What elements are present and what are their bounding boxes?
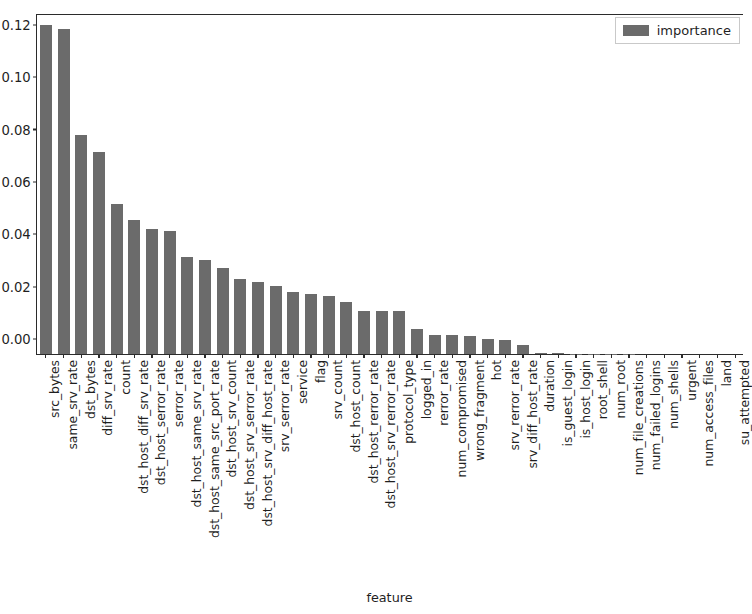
bar — [234, 279, 246, 354]
x-axis-tick-mark — [45, 354, 46, 358]
x-axis-tick-label: hot — [491, 360, 503, 380]
bar — [128, 220, 140, 354]
x-axis-tick-label: root_shell — [597, 360, 609, 419]
x-axis-tick-mark — [275, 354, 276, 358]
y-axis-tick-label: 0.04 — [2, 227, 31, 242]
bar — [376, 311, 388, 354]
y-axis-tick: 0.04 — [2, 227, 37, 242]
bar — [393, 311, 405, 354]
x-axis-tick-label: duration — [544, 360, 556, 412]
x-axis-tick-mark — [522, 354, 523, 358]
x-axis-tick-label: same_srv_rate — [67, 360, 79, 450]
bar — [323, 296, 335, 354]
x-axis-tick-mark — [346, 354, 347, 358]
x-axis-tick-label: num_access_files — [703, 360, 715, 466]
x-axis-tick-mark — [98, 354, 99, 358]
x-axis-tick-label: num_root — [615, 360, 627, 418]
bar — [287, 292, 299, 354]
x-axis-tick-label: num_file_creations — [633, 360, 645, 475]
bar — [464, 336, 476, 354]
bar — [482, 339, 494, 354]
y-axis-tick-label: 0.02 — [2, 279, 31, 294]
x-axis-tick-label: protocol_type — [403, 360, 415, 444]
x-axis-tick-label: wrong_fragment — [474, 360, 486, 461]
bar — [93, 152, 105, 354]
x-axis-tick-label: dst_host_rerror_rate — [368, 360, 380, 484]
x-axis-tick-label: logged_in — [421, 360, 433, 419]
x-axis-tick-mark — [575, 354, 576, 358]
x-axis-tick-label: urgent — [686, 360, 698, 401]
x-axis-tick-mark — [363, 354, 364, 358]
x-axis-tick-mark — [646, 354, 647, 358]
x-axis-tick-label: land — [721, 360, 733, 387]
x-axis-tick-label: num_compromised — [456, 360, 468, 477]
y-axis-tick-label: 0.10 — [2, 70, 31, 85]
bar — [517, 345, 529, 354]
bar — [58, 29, 70, 354]
x-axis-tick-mark — [558, 354, 559, 358]
bar — [252, 282, 264, 354]
x-axis-tick-label: num_failed_logins — [650, 360, 662, 470]
y-axis-tick-label: 0.12 — [2, 17, 31, 32]
y-axis-tick-label: 0.08 — [2, 122, 31, 137]
x-axis-tick-label: dst_host_same_src_port_rate — [209, 360, 221, 538]
x-axis-tick-mark — [735, 354, 736, 358]
x-axis-tick-label: count — [120, 360, 132, 395]
legend-swatch-importance — [623, 25, 649, 36]
x-axis-tick-mark — [169, 354, 170, 358]
legend: importance — [615, 17, 740, 44]
bar — [111, 204, 123, 354]
x-axis-tick-label: is_guest_login — [562, 360, 574, 446]
x-axis-tick-mark — [222, 354, 223, 358]
x-axis-tick-mark — [699, 354, 700, 358]
y-axis-tick: 0.12 — [2, 17, 37, 32]
x-axis-tick-label: dst_host_srv_serror_rate — [244, 360, 256, 510]
bar — [75, 135, 87, 354]
x-axis-tick-label: srv_diff_host_rate — [527, 360, 539, 469]
bar — [199, 260, 211, 354]
x-axis-tick-label: service — [297, 360, 309, 404]
y-axis-tick: 0.02 — [2, 279, 37, 294]
x-axis-tick-label: dst_host_diff_srv_rate — [138, 360, 150, 494]
x-axis-tick-mark — [116, 354, 117, 358]
x-axis-tick-mark — [293, 354, 294, 358]
x-axis-tick-mark — [628, 354, 629, 358]
x-axis-tick-label: src_bytes — [49, 360, 61, 418]
x-axis-tick-label: dst_host_serror_rate — [155, 360, 167, 485]
x-axis-tick-mark — [240, 354, 241, 358]
bar — [305, 294, 317, 354]
y-axis-tick: 0.06 — [2, 174, 37, 189]
bar — [181, 257, 193, 354]
y-axis-tick-label: 0.00 — [2, 332, 31, 347]
bar — [429, 335, 441, 354]
bar — [411, 329, 423, 354]
x-axis-tick-label: srv_count — [332, 360, 344, 420]
x-axis-tick-label: srv_rerror_rate — [509, 360, 521, 451]
x-axis-tick-label: dst_host_count — [350, 360, 362, 453]
x-axis-tick-mark — [81, 354, 82, 358]
x-axis-tick-mark — [399, 354, 400, 358]
x-axis-tick-mark — [310, 354, 311, 358]
bar — [164, 231, 176, 354]
x-axis-tick-label: rerror_rate — [438, 360, 450, 426]
x-axis-tick-mark — [505, 354, 506, 358]
bar — [358, 311, 370, 354]
x-axis-tick-mark — [151, 354, 152, 358]
bar — [40, 25, 52, 354]
x-axis-tick-label: dst_host_srv_rerror_rate — [385, 360, 397, 508]
x-axis-title: feature — [36, 590, 743, 605]
x-axis-tick-label: flag — [315, 360, 327, 383]
x-axis-tick-label: num_shells — [668, 360, 680, 429]
x-axis-tick-mark — [469, 354, 470, 358]
x-axis-tick-label: dst_bytes — [85, 360, 97, 419]
x-axis-tick-label: serror_rate — [173, 360, 185, 427]
y-axis-tick-label: 0.06 — [2, 174, 31, 189]
x-axis-tick-mark — [187, 354, 188, 358]
x-axis-tick-mark — [540, 354, 541, 358]
bar — [340, 302, 352, 354]
bar — [499, 340, 511, 354]
bar — [217, 268, 229, 354]
y-axis-tick: 0.10 — [2, 70, 37, 85]
x-axis-tick-label: dst_host_same_srv_rate — [191, 360, 203, 507]
